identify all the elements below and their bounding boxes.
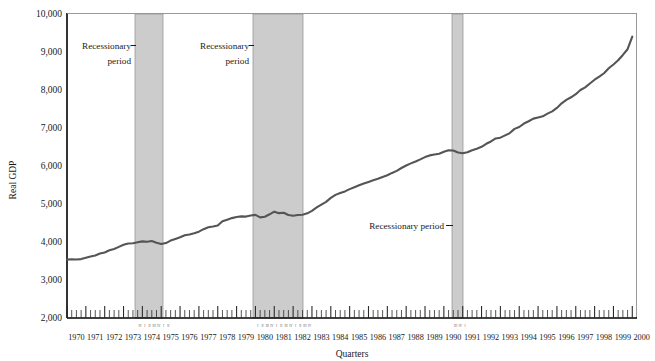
year-label: 1974 bbox=[144, 333, 160, 342]
year-label: 1993 bbox=[502, 333, 518, 342]
recession-annotation-1: Recessionary period bbox=[82, 41, 136, 66]
year-label: 1983 bbox=[313, 333, 329, 342]
year-label: 1982 bbox=[294, 333, 310, 342]
quarter-numeral-label: I bbox=[295, 324, 296, 328]
x-axis-quarter-numerals: IVIIIIIIIVIIIIIIIIIIVIIIIIIIVIIIIIIIVIII… bbox=[138, 324, 465, 328]
quarter-numeral-label: III bbox=[285, 324, 288, 328]
recession-annotation-2-line2: period bbox=[226, 56, 250, 66]
recession-band-1980-1982 bbox=[253, 14, 303, 318]
year-label: 1976 bbox=[181, 333, 197, 342]
year-label: 1981 bbox=[276, 333, 292, 342]
recession-bands bbox=[135, 14, 463, 318]
year-label: 1987 bbox=[389, 333, 405, 342]
quarter-numeral-label: III bbox=[266, 324, 269, 328]
year-label: 1984 bbox=[332, 333, 348, 342]
quarter-numeral-label: III bbox=[303, 324, 306, 328]
year-label: 1992 bbox=[483, 333, 499, 342]
recession-annotation-3-line1: Recessionary period bbox=[369, 221, 444, 231]
chart-canvas: 10,000 9,000 8,000 7,000 6,000 5,000 4,0… bbox=[0, 0, 655, 361]
y-axis-ticks: 10,000 9,000 8,000 7,000 6,000 5,000 4,0… bbox=[36, 9, 62, 323]
year-label: 1972 bbox=[106, 333, 122, 342]
year-label: 1971 bbox=[87, 333, 103, 342]
year-label: 1999 bbox=[615, 333, 631, 342]
quarter-numeral-label: I bbox=[257, 324, 258, 328]
quarter-numeral-label: II bbox=[261, 324, 263, 328]
year-label: 1985 bbox=[351, 333, 367, 342]
quarter-numeral-label: I bbox=[163, 324, 164, 328]
y-tick-label: 2,000 bbox=[41, 313, 63, 323]
year-label: 1975 bbox=[162, 333, 178, 342]
y-axis-title: Real GDP bbox=[8, 161, 18, 200]
year-label: 1990 bbox=[445, 333, 461, 342]
y-tick-label: 5,000 bbox=[41, 199, 63, 209]
quarter-numeral-label: I bbox=[465, 324, 466, 328]
year-label: 1977 bbox=[200, 333, 216, 342]
y-tick-label: 7,000 bbox=[41, 123, 63, 133]
quarter-numeral-label: IV bbox=[138, 324, 142, 328]
y-tick-label: 4,000 bbox=[41, 237, 63, 247]
year-label: 1986 bbox=[370, 333, 386, 342]
y-tick-label: 10,000 bbox=[36, 9, 62, 19]
y-tick-label: 3,000 bbox=[41, 275, 63, 285]
recession-annotation-1-line2: period bbox=[108, 56, 132, 66]
x-axis-title: Quarters bbox=[336, 349, 369, 359]
quarter-numeral-label: II bbox=[280, 324, 282, 328]
quarter-numeral-label: IV bbox=[308, 324, 312, 328]
year-label: 1970 bbox=[68, 333, 84, 342]
year-label: 1989 bbox=[426, 333, 442, 342]
quarter-numeral-label: IV bbox=[270, 324, 274, 328]
year-label: 1998 bbox=[596, 333, 612, 342]
recession-annotation-1-line1: Recessionary bbox=[82, 41, 131, 51]
year-label: 1978 bbox=[219, 333, 235, 342]
year-label: 1988 bbox=[407, 333, 423, 342]
quarter-numeral-label: III bbox=[153, 324, 156, 328]
quarter-numeral-label: IV bbox=[459, 324, 463, 328]
quarter-numeral-label: III bbox=[454, 324, 457, 328]
year-label: 1994 bbox=[520, 333, 536, 342]
y-tick-label: 6,000 bbox=[41, 161, 63, 171]
recession-band-1990-1991 bbox=[452, 14, 463, 318]
quarter-numeral-label: II bbox=[299, 324, 301, 328]
quarter-numeral-label: II bbox=[148, 324, 150, 328]
quarter-numeral-label: IV bbox=[289, 324, 293, 328]
year-label: 1997 bbox=[577, 333, 593, 342]
recession-annotation-2-line1: Recessionary bbox=[200, 41, 249, 51]
year-label: 1995 bbox=[539, 333, 555, 342]
y-tick-label: 8,000 bbox=[41, 85, 63, 95]
gdp-recession-chart-figure: 10,000 9,000 8,000 7,000 6,000 5,000 4,0… bbox=[0, 0, 655, 361]
year-label: 2000 bbox=[634, 333, 650, 342]
x-axis-year-labels: 1970197119721973197419751976197719781979… bbox=[68, 333, 650, 342]
year-label: 1980 bbox=[257, 333, 273, 342]
year-label: 1973 bbox=[125, 333, 141, 342]
quarter-numeral-label: II bbox=[167, 324, 169, 328]
year-label: 1979 bbox=[238, 333, 254, 342]
recession-annotation-2: Recessionary period bbox=[200, 41, 254, 66]
quarter-numeral-label: IV bbox=[157, 324, 161, 328]
recession-band-1973-1975 bbox=[135, 14, 163, 318]
y-tick-label: 9,000 bbox=[41, 47, 63, 57]
quarter-numeral-label: I bbox=[144, 324, 145, 328]
year-label: 1996 bbox=[558, 333, 574, 342]
recession-annotation-3: Recessionary period bbox=[369, 221, 453, 231]
quarter-numeral-label: I bbox=[276, 324, 277, 328]
year-label: 1991 bbox=[464, 333, 480, 342]
